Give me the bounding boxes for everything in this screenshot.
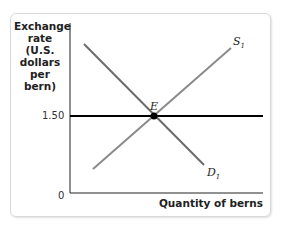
chart-plot: E S1 D1: [0, 0, 283, 226]
supply-label: S1: [233, 35, 245, 50]
demand-label: D1: [206, 166, 220, 181]
demand-curve-d1: [84, 44, 204, 165]
equilibrium-label: E: [149, 100, 158, 113]
equilibrium-point: [151, 113, 158, 120]
supply-curve-s1: [93, 48, 231, 169]
